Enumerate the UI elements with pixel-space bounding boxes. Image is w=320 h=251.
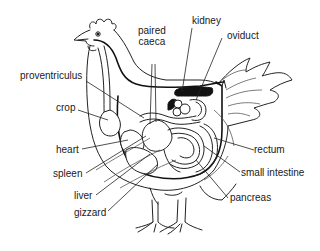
label-liver: liver bbox=[74, 190, 92, 201]
label-pancreas: pancreas bbox=[230, 192, 271, 203]
label-crop: crop bbox=[56, 102, 75, 113]
legs bbox=[136, 192, 202, 234]
tail-feathers bbox=[218, 58, 292, 126]
label-oviduct: oviduct bbox=[227, 30, 259, 41]
label-rectum: rectum bbox=[254, 144, 285, 155]
kidney-organ bbox=[175, 87, 213, 96]
head bbox=[74, 19, 116, 51]
label-gizzard: gizzard bbox=[74, 207, 106, 218]
label-spleen: spleen bbox=[53, 168, 82, 179]
label-paired-caeca: paired caeca bbox=[138, 25, 166, 47]
label-kidney: kidney bbox=[192, 15, 221, 26]
label-proventriculus: proventriculus bbox=[20, 70, 82, 81]
label-small-intestine: small intestine bbox=[241, 167, 304, 178]
label-heart: heart bbox=[56, 144, 79, 155]
label-paired-caeca-line2: caeca bbox=[138, 36, 166, 47]
gizzard-organ bbox=[142, 120, 172, 151]
label-paired-caeca-line1: paired bbox=[138, 25, 166, 36]
